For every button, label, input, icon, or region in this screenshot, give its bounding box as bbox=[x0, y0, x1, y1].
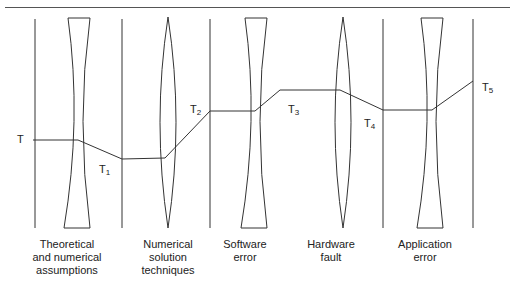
concave-lens-icon bbox=[64, 18, 90, 228]
concave-lens-icon bbox=[417, 18, 443, 228]
stage-label-software: Software error bbox=[200, 238, 290, 264]
convex-lens-icon bbox=[335, 17, 351, 228]
convex-lens-icon bbox=[160, 17, 176, 228]
concave-lens-icon bbox=[241, 18, 267, 228]
stage-label-theoretical: Theoretical and numerical assumptions bbox=[22, 238, 112, 277]
truth-path bbox=[33, 81, 473, 159]
truth-label-T2: T2 bbox=[190, 103, 201, 117]
stage-label-hardware: Hardware fault bbox=[286, 238, 376, 264]
truth-label-T1: T1 bbox=[99, 163, 110, 177]
stage-label-application: Application error bbox=[380, 238, 470, 264]
truth-label-T: T bbox=[17, 133, 24, 147]
truth-label-T5: T5 bbox=[482, 81, 493, 95]
truth-label-T3: T3 bbox=[288, 103, 299, 117]
truth-label-T4: T4 bbox=[364, 117, 375, 131]
